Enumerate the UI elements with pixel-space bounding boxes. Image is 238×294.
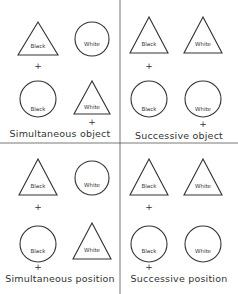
shape-label: Black bbox=[31, 106, 47, 112]
shape-label: Black bbox=[31, 248, 47, 254]
shape-label: White bbox=[195, 183, 212, 189]
triangle-black: Black bbox=[19, 159, 57, 195]
triangle-white: White bbox=[184, 159, 222, 195]
panel-caption: Successive position bbox=[131, 273, 228, 284]
fixation-plus: + bbox=[34, 262, 42, 272]
circle-icon bbox=[75, 22, 109, 56]
shape-label: Black bbox=[142, 183, 158, 189]
triangle-white: White bbox=[74, 81, 110, 114]
shape-label: Black bbox=[31, 43, 47, 49]
circle-white: White bbox=[75, 22, 109, 56]
shape-label: Black bbox=[31, 183, 47, 189]
circle-black: Black bbox=[131, 226, 167, 262]
shape-label: Black bbox=[142, 41, 158, 47]
fixation-plus: + bbox=[145, 262, 153, 272]
panel-successive-object: Black White + Black White + Successive o… bbox=[130, 17, 223, 141]
circle-icon bbox=[131, 226, 167, 262]
circle-white: White bbox=[185, 226, 221, 262]
circle-icon bbox=[20, 226, 56, 262]
circle-black: Black bbox=[131, 81, 167, 117]
fixation-plus: + bbox=[199, 119, 207, 129]
triangle-black: Black bbox=[130, 17, 168, 53]
triangle-white: White bbox=[73, 223, 111, 259]
circle-icon bbox=[75, 161, 109, 195]
shape-label: White bbox=[195, 41, 212, 47]
panel-caption: Simultaneous object bbox=[10, 128, 111, 139]
panel-simultaneous-object: Black White + Black White + Simultaneous… bbox=[10, 22, 111, 139]
panel-caption: Successive object bbox=[135, 130, 223, 141]
fixation-plus: + bbox=[145, 202, 153, 212]
triangle-icon bbox=[19, 159, 57, 195]
triangle-icon bbox=[73, 223, 111, 259]
stimulus-diagram: Black White + Black White + Simultaneous… bbox=[0, 0, 238, 294]
shape-label: White bbox=[84, 247, 101, 253]
triangle-icon bbox=[184, 17, 222, 53]
panel-simultaneous-position: Black White + Black White + Simultaneous… bbox=[5, 159, 115, 284]
triangle-icon bbox=[184, 159, 222, 195]
circle-white: White bbox=[75, 161, 109, 195]
circle-black: Black bbox=[20, 81, 56, 117]
triangle-white: White bbox=[184, 17, 222, 53]
circle-black: Black bbox=[20, 226, 56, 262]
fixation-plus: + bbox=[145, 61, 153, 71]
triangle-black: Black bbox=[130, 159, 168, 195]
shape-label: White bbox=[84, 41, 101, 47]
shape-label: Black bbox=[142, 106, 158, 112]
triangle-icon bbox=[130, 159, 168, 195]
shape-label: White bbox=[195, 248, 212, 254]
circle-white: White bbox=[185, 81, 221, 117]
triangle-icon bbox=[130, 17, 168, 53]
panel-successive-position: Black White + Black White + Successive p… bbox=[130, 159, 227, 284]
circle-icon bbox=[185, 226, 221, 262]
shape-label: White bbox=[84, 104, 101, 110]
fixation-plus: + bbox=[34, 202, 42, 212]
triangle-icon bbox=[18, 22, 58, 55]
triangle-black: Black bbox=[18, 22, 58, 55]
shape-label: Black bbox=[142, 248, 158, 254]
shape-label: White bbox=[84, 182, 101, 188]
shape-label: White bbox=[195, 106, 212, 112]
fixation-plus: + bbox=[34, 61, 42, 71]
fixation-plus: + bbox=[88, 117, 96, 127]
panel-caption: Simultaneous position bbox=[5, 273, 115, 284]
